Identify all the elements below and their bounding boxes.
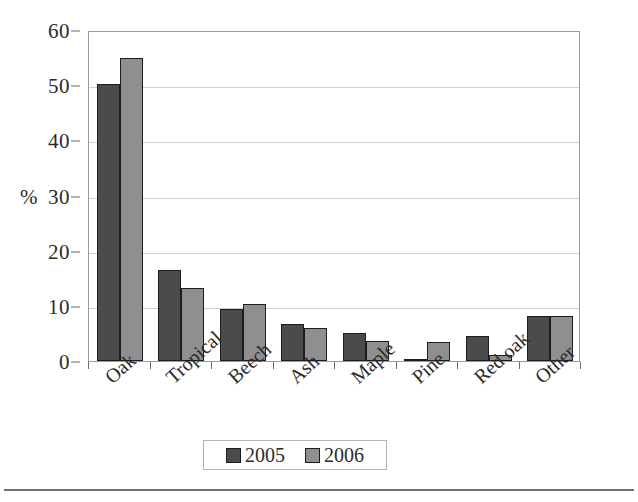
y-tick-mark (71, 141, 80, 142)
y-tick-label: 40 (48, 131, 70, 152)
light-gray-swatch (305, 448, 320, 463)
y-tick-mark (71, 251, 80, 252)
gridline (89, 253, 579, 254)
x-tick-mark (334, 362, 335, 369)
bottom-divider (4, 489, 634, 491)
bar-tropical-2005 (158, 270, 181, 361)
gridline (89, 142, 579, 143)
legend-label: 2005 (245, 445, 285, 465)
bar-other-2005 (527, 316, 550, 361)
x-tick-mark (150, 362, 151, 369)
y-tick-label: 50 (48, 76, 70, 97)
y-axis: 0102030405060% (0, 0, 88, 400)
bar-oak-2005 (97, 84, 120, 361)
y-tick-mark (71, 362, 80, 363)
x-tick-mark (273, 362, 274, 369)
gridline (89, 198, 579, 199)
y-tick-label: 30 (48, 186, 70, 207)
y-tick-label: 0 (59, 352, 70, 373)
x-tick-mark (519, 362, 520, 369)
y-tick-mark (71, 196, 80, 197)
y-tick-mark (71, 86, 80, 87)
legend: 20052006 (203, 440, 387, 470)
x-tick-mark (88, 362, 89, 369)
dark-gray-swatch (226, 448, 241, 463)
y-tick-mark (71, 306, 80, 307)
x-tick-mark (457, 362, 458, 369)
y-tick-label: 20 (48, 241, 70, 262)
bar-chart-figure: 0102030405060% OakTropicalBeechAshMapleP… (0, 0, 638, 502)
legend-entry-2005: 2005 (226, 445, 285, 465)
legend-entry-2006: 2006 (305, 445, 364, 465)
y-tick-label: 60 (48, 21, 70, 42)
y-axis-title: % (20, 186, 38, 207)
plot-area (88, 31, 580, 362)
gridline (89, 87, 579, 88)
y-tick-mark (71, 31, 80, 32)
bar-oak-2006 (120, 58, 143, 361)
bar-beech-2005 (220, 309, 243, 361)
x-tick-mark (396, 362, 397, 369)
y-tick-label: 10 (48, 296, 70, 317)
legend-label: 2006 (324, 445, 364, 465)
x-tick-mark (580, 362, 581, 369)
x-tick-mark (211, 362, 212, 369)
